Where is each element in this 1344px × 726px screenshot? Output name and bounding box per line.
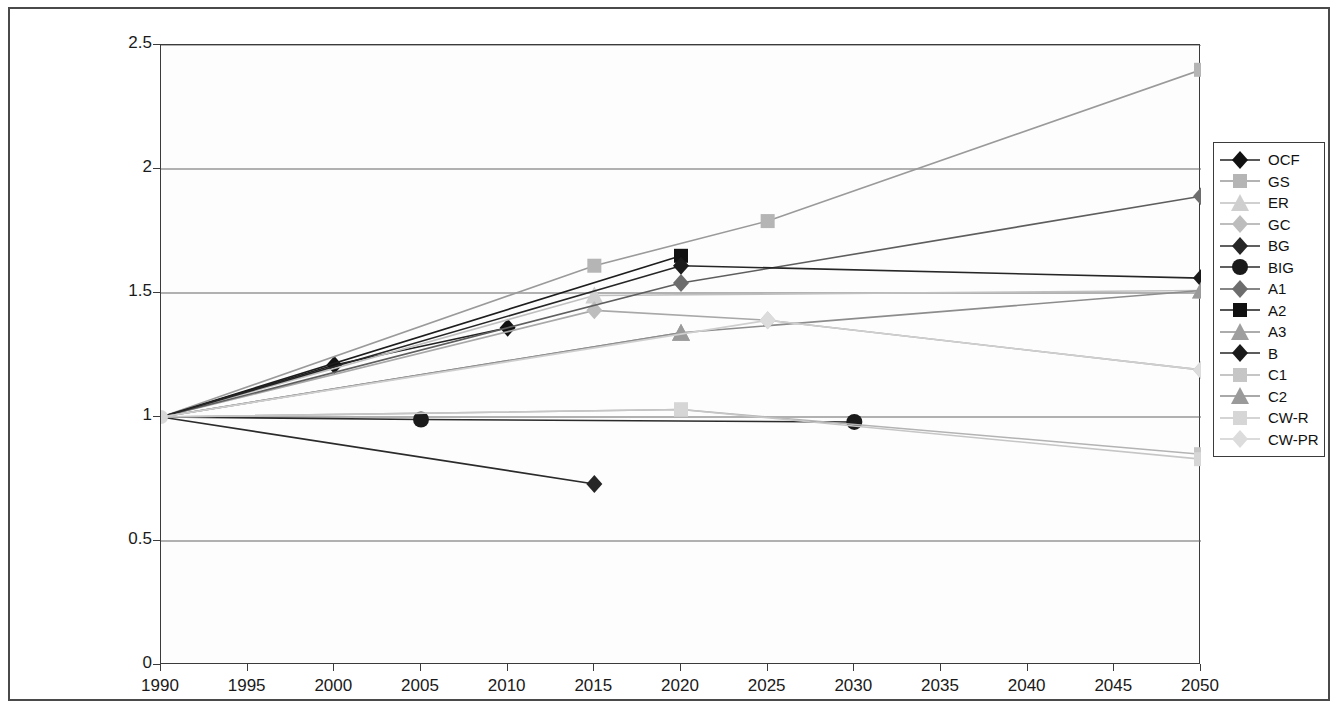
legend-label: GS xyxy=(1262,173,1290,190)
x-tick-mark xyxy=(1113,664,1114,671)
x-tick-mark xyxy=(940,664,941,671)
x-tick-mark xyxy=(333,664,334,671)
legend-label: A2 xyxy=(1262,302,1286,319)
x-tick-label: 2005 xyxy=(385,676,455,696)
series-marker-circle xyxy=(846,414,862,430)
x-tick-label: 2015 xyxy=(558,676,628,696)
legend-label: A3 xyxy=(1262,323,1286,340)
series-line xyxy=(161,256,681,417)
chart-area: index (1990 = 1) 00.511.522.5 1990199520… xyxy=(160,44,1200,664)
x-tick-mark xyxy=(507,664,508,671)
legend-key-icon xyxy=(1218,150,1262,170)
legend-label: ER xyxy=(1262,194,1289,211)
x-tick-label: 2035 xyxy=(905,676,975,696)
y-tick-mark xyxy=(153,292,160,293)
series-marker-diamond xyxy=(1232,430,1248,448)
series-marker-diamond xyxy=(1232,151,1248,169)
legend-item-big[interactable]: BIG xyxy=(1218,257,1320,279)
legend-item-er[interactable]: ER xyxy=(1218,192,1320,214)
legend-key-icon xyxy=(1218,193,1262,213)
series-marker-circle xyxy=(1232,259,1248,275)
series-c2 xyxy=(161,282,1201,417)
legend-item-gs[interactable]: GS xyxy=(1218,171,1320,193)
legend-item-ocf[interactable]: OCF xyxy=(1218,149,1320,171)
series-bg xyxy=(161,417,602,493)
x-tick-mark xyxy=(680,664,681,671)
legend-item-a3[interactable]: A3 xyxy=(1218,321,1320,343)
y-tick-label: 0.5 xyxy=(92,529,152,549)
series-marker-diamond xyxy=(1232,280,1248,298)
series-marker-square xyxy=(1233,303,1247,317)
legend-label: B xyxy=(1262,345,1278,362)
legend-key-icon xyxy=(1218,171,1262,191)
legend-label: BG xyxy=(1262,237,1290,254)
series-marker-diamond xyxy=(586,475,602,493)
series-marker-diamond xyxy=(1193,361,1201,379)
series-gc xyxy=(161,301,1201,417)
legend-label: CW-R xyxy=(1262,409,1309,426)
series-cw-r xyxy=(161,403,1201,467)
y-tick-mark xyxy=(153,168,160,169)
series-marker-diamond xyxy=(1232,237,1248,255)
legend-key-icon xyxy=(1218,300,1262,320)
y-tick-mark xyxy=(153,44,160,45)
plot-region xyxy=(160,44,1200,664)
legend-item-c1[interactable]: C1 xyxy=(1218,364,1320,386)
x-tick-mark xyxy=(420,664,421,671)
legend-item-b[interactable]: B xyxy=(1218,343,1320,365)
y-tick-label: 0 xyxy=(92,653,152,673)
legend-item-gc[interactable]: GC xyxy=(1218,214,1320,236)
series-marker-square xyxy=(1194,63,1201,77)
x-tick-mark xyxy=(853,664,854,671)
legend-key-icon xyxy=(1218,365,1262,385)
legend-label: GC xyxy=(1262,216,1291,233)
legend-item-bg[interactable]: BG xyxy=(1218,235,1320,257)
legend-key-icon xyxy=(1218,408,1262,428)
series-marker-square xyxy=(1233,411,1247,425)
series-marker-diamond xyxy=(673,274,689,292)
series-marker-square xyxy=(1233,368,1247,382)
x-tick-mark xyxy=(767,664,768,671)
series-marker-diamond xyxy=(1232,344,1248,362)
legend-label: OCF xyxy=(1262,151,1300,168)
legend-item-cw-r[interactable]: CW-R xyxy=(1218,407,1320,429)
series-a2 xyxy=(161,249,688,417)
x-tick-label: 2050 xyxy=(1165,676,1235,696)
legend-key-icon xyxy=(1218,257,1262,277)
series-a1 xyxy=(161,187,1201,417)
plot-svg xyxy=(161,45,1201,665)
x-tick-label: 2045 xyxy=(1078,676,1148,696)
y-tick-label: 2 xyxy=(92,157,152,177)
x-tick-label: 2030 xyxy=(818,676,888,696)
y-tick-mark xyxy=(153,540,160,541)
series-er xyxy=(161,282,1201,417)
legend-label: A1 xyxy=(1262,280,1286,297)
chart-legend: OCFGSERGCBGBIGA1A2A3BC1C2CW-RCW-PR xyxy=(1213,142,1325,457)
series-line xyxy=(161,291,1201,417)
x-tick-label: 1995 xyxy=(212,676,282,696)
series-marker-square xyxy=(1194,452,1201,466)
series-a3 xyxy=(161,324,690,417)
x-tick-mark xyxy=(593,664,594,671)
y-tick-mark xyxy=(153,416,160,417)
series-line xyxy=(161,70,1201,417)
legend-label: CW-PR xyxy=(1262,431,1319,448)
legend-key-icon xyxy=(1218,279,1262,299)
x-tick-label: 2025 xyxy=(732,676,802,696)
series-big xyxy=(161,411,862,429)
legend-item-a2[interactable]: A2 xyxy=(1218,300,1320,322)
legend-item-c2[interactable]: C2 xyxy=(1218,386,1320,408)
chart-page: index (1990 = 1) 00.511.522.5 1990199520… xyxy=(0,0,1344,726)
legend-label: C2 xyxy=(1262,388,1287,405)
legend-item-a1[interactable]: A1 xyxy=(1218,278,1320,300)
y-tick-mark xyxy=(153,664,160,665)
y-tick-label: 2.5 xyxy=(92,33,152,53)
x-tick-label: 2000 xyxy=(298,676,368,696)
x-tick-label: 1990 xyxy=(125,676,195,696)
series-marker-diamond xyxy=(1232,215,1248,233)
series-gs xyxy=(161,63,1201,417)
legend-item-cw-pr[interactable]: CW-PR xyxy=(1218,429,1320,451)
y-tick-label: 1.5 xyxy=(92,281,152,301)
series-line xyxy=(161,417,854,422)
x-tick-mark xyxy=(247,664,248,671)
